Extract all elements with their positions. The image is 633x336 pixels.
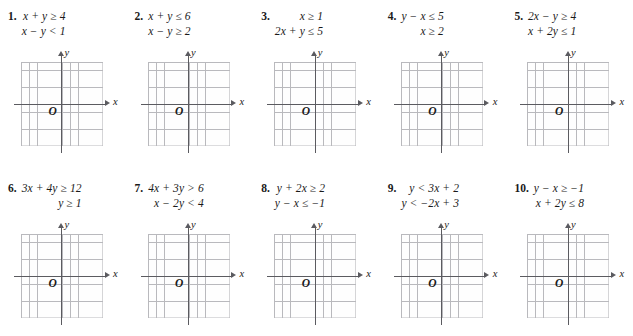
inequality-line: 4x + 3y > 6 bbox=[148, 181, 204, 196]
x-axis-label: x bbox=[113, 268, 118, 279]
coordinate-grid-2[interactable]: x y O bbox=[127, 46, 254, 158]
x-axis-line bbox=[267, 104, 359, 105]
problem-row-2: 6. 3x + 4y ≥ 12 y ≥ 1 x y O 7. bbox=[0, 172, 633, 336]
x-axis-arrow-icon bbox=[358, 100, 363, 106]
problem-cell-9: 9. y < 3x + 2 y < −2x + 3 x y O bbox=[380, 172, 507, 336]
inequality-line: x − y ≥ 2 bbox=[148, 24, 190, 39]
origin-label: O bbox=[175, 105, 183, 117]
inequality-list-5: 2x − y ≥ 4 x + 2y ≤ 1 bbox=[528, 9, 576, 39]
inequality-line: x + 2y ≤ 1 bbox=[528, 24, 576, 39]
origin-label: O bbox=[175, 277, 183, 289]
y-axis-label: y bbox=[444, 219, 449, 230]
x-axis-arrow-icon bbox=[484, 100, 489, 106]
y-axis-line bbox=[441, 227, 442, 325]
x-axis-line bbox=[14, 104, 106, 105]
x-axis-arrow-icon bbox=[358, 272, 363, 278]
x-axis-label: x bbox=[619, 268, 624, 279]
y-axis-arrow-icon bbox=[185, 51, 191, 56]
y-axis-line bbox=[188, 227, 189, 325]
x-axis-line bbox=[141, 276, 233, 277]
coordinate-grid-1[interactable]: x y O bbox=[0, 46, 127, 158]
inequality-line: 2x + y ≤ 5 bbox=[275, 24, 323, 39]
problem-cell-6: 6. 3x + 4y ≥ 12 y ≥ 1 x y O bbox=[0, 172, 127, 336]
inequality-list-9: y < 3x + 2 y < −2x + 3 bbox=[401, 181, 459, 211]
x-axis-label: x bbox=[493, 268, 498, 279]
coordinate-grid-9[interactable]: x y O bbox=[380, 218, 507, 330]
problem-number-7: 7. bbox=[135, 181, 149, 196]
y-axis-line bbox=[568, 55, 569, 153]
problem-row-1: 1. x + y ≥ 4 x − y < 1 x y O 2. bbox=[0, 0, 633, 168]
problem-statement-9: 9. y < 3x + 2 y < −2x + 3 bbox=[380, 172, 507, 218]
x-axis-label: x bbox=[240, 268, 245, 279]
inequality-line: x − 2y < 4 bbox=[154, 196, 204, 211]
inequality-line: y − x ≤ 5 bbox=[401, 9, 443, 24]
y-axis-arrow-icon bbox=[311, 223, 317, 228]
inequality-line: x + y ≤ 6 bbox=[148, 9, 190, 24]
x-axis-arrow-icon bbox=[105, 272, 110, 278]
coordinate-grid-3[interactable]: x y O bbox=[253, 46, 380, 158]
problem-cell-4: 4. y − x ≤ 5 x ≥ 2 x y O bbox=[380, 0, 507, 168]
inequality-list-10: y − x ≥ −1 x + 2y ≤ 8 bbox=[534, 181, 584, 211]
inequality-list-8: y + 2x ≥ 2 y − x ≤ −1 bbox=[275, 181, 325, 211]
coordinate-grid-6[interactable]: x y O bbox=[0, 218, 127, 330]
y-axis-line bbox=[61, 227, 62, 325]
problem-statement-5: 5. 2x − y ≥ 4 x + 2y ≤ 1 bbox=[506, 0, 633, 46]
problem-number-3: 3. bbox=[261, 9, 275, 24]
inequality-list-1: x + y ≥ 4 x − y < 1 bbox=[22, 9, 66, 39]
x-axis-label: x bbox=[619, 96, 624, 107]
y-axis-line bbox=[568, 227, 569, 325]
inequality-list-6: 3x + 4y ≥ 12 y ≥ 1 bbox=[22, 181, 82, 211]
problem-statement-4: 4. y − x ≤ 5 x ≥ 2 bbox=[380, 0, 507, 46]
y-axis-line bbox=[441, 55, 442, 153]
x-axis-arrow-icon bbox=[105, 100, 110, 106]
problem-number-6: 6. bbox=[8, 181, 22, 196]
x-axis-label: x bbox=[493, 96, 498, 107]
y-axis-arrow-icon bbox=[58, 51, 64, 56]
problem-statement-8: 8. y + 2x ≥ 2 y − x ≤ −1 bbox=[253, 172, 380, 218]
x-axis-label: x bbox=[240, 96, 245, 107]
origin-label: O bbox=[555, 105, 563, 117]
problem-statement-10: 10. y − x ≥ −1 x + 2y ≤ 8 bbox=[506, 172, 633, 218]
x-axis-arrow-icon bbox=[231, 100, 236, 106]
coordinate-grid-7[interactable]: x y O bbox=[127, 218, 254, 330]
x-axis-line bbox=[267, 276, 359, 277]
problem-cell-3: 3. x ≥ 1 2x + y ≤ 5 x y O bbox=[253, 0, 380, 168]
coordinate-grid-8[interactable]: x y O bbox=[253, 218, 380, 330]
x-axis-arrow-icon bbox=[611, 100, 616, 106]
x-axis-label: x bbox=[113, 96, 118, 107]
coordinate-grid-4[interactable]: x y O bbox=[380, 46, 507, 158]
y-axis-label: y bbox=[65, 219, 70, 230]
problem-cell-5: 5. 2x − y ≥ 4 x + 2y ≤ 1 x y O bbox=[506, 0, 633, 168]
y-axis-label: y bbox=[571, 47, 576, 58]
y-axis-label: y bbox=[318, 219, 323, 230]
x-axis-label: x bbox=[366, 96, 371, 107]
inequality-line: x + 2y ≤ 8 bbox=[536, 196, 584, 211]
y-axis-line bbox=[315, 227, 316, 325]
problem-cell-8: 8. y + 2x ≥ 2 y − x ≤ −1 x y O bbox=[253, 172, 380, 336]
inequality-line: x ≥ 2 bbox=[420, 24, 443, 39]
x-axis-arrow-icon bbox=[231, 272, 236, 278]
exercise-page: 1. x + y ≥ 4 x − y < 1 x y O 2. bbox=[0, 0, 633, 336]
x-axis-arrow-icon bbox=[484, 272, 489, 278]
problem-statement-2: 2. x + y ≤ 6 x − y ≥ 2 bbox=[127, 0, 254, 46]
x-axis-arrow-icon bbox=[611, 272, 616, 278]
problem-number-9: 9. bbox=[388, 181, 402, 196]
inequality-line: x ≥ 1 bbox=[300, 9, 323, 24]
y-axis-label: y bbox=[191, 47, 196, 58]
origin-label: O bbox=[428, 105, 436, 117]
x-axis-line bbox=[141, 104, 233, 105]
inequality-line: x − y < 1 bbox=[22, 24, 66, 39]
y-axis-arrow-icon bbox=[565, 51, 571, 56]
problem-number-8: 8. bbox=[261, 181, 275, 196]
problem-cell-10: 10. y − x ≥ −1 x + 2y ≤ 8 x y O bbox=[506, 172, 633, 336]
y-axis-label: y bbox=[571, 219, 576, 230]
coordinate-grid-5[interactable]: x y O bbox=[506, 46, 633, 158]
origin-label: O bbox=[302, 277, 310, 289]
x-axis-line bbox=[394, 104, 486, 105]
inequality-line: 2x − y ≥ 4 bbox=[528, 9, 576, 24]
x-axis-line bbox=[394, 276, 486, 277]
inequality-line: y < −2x + 3 bbox=[401, 196, 459, 211]
inequality-line: y + 2x ≥ 2 bbox=[277, 181, 325, 196]
problem-number-1: 1. bbox=[8, 9, 22, 24]
coordinate-grid-10[interactable]: x y O bbox=[506, 218, 633, 330]
